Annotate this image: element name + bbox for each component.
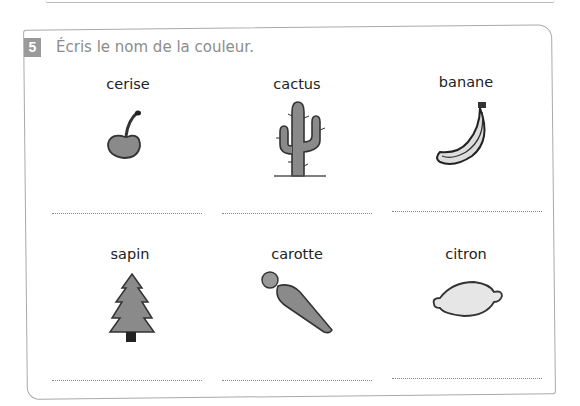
item-cactus: cactus — [217, 76, 377, 92]
lemon-icon — [430, 276, 504, 320]
cherry-icon — [100, 108, 150, 168]
item-carotte: carotte — [217, 246, 377, 262]
cactus-icon — [268, 100, 332, 180]
answer-line-banane[interactable] — [392, 211, 542, 212]
fir-tree-icon — [106, 272, 156, 346]
item-label: citron — [386, 246, 546, 262]
page-top-border — [45, 0, 555, 3]
item-citron: citron — [386, 246, 546, 262]
exercise-number-badge: 5 — [24, 38, 41, 57]
answer-line-cactus[interactable] — [222, 213, 372, 214]
exercise-instruction: Écris le nom de la couleur. — [56, 38, 254, 56]
carrot-icon — [260, 270, 336, 338]
item-label: banane — [386, 74, 546, 90]
item-sapin: sapin — [50, 246, 210, 262]
answer-line-citron[interactable] — [392, 378, 542, 379]
item-label: carotte — [217, 246, 377, 262]
item-label: sapin — [50, 246, 210, 262]
answer-line-cerise[interactable] — [52, 213, 202, 214]
item-cerise: cerise — [48, 76, 208, 92]
answer-line-carotte[interactable] — [222, 380, 372, 381]
item-label: cactus — [217, 76, 377, 92]
banana-icon — [432, 100, 496, 172]
answer-line-sapin[interactable] — [52, 380, 202, 381]
item-label: cerise — [48, 76, 208, 92]
item-banane: banane — [386, 74, 546, 90]
